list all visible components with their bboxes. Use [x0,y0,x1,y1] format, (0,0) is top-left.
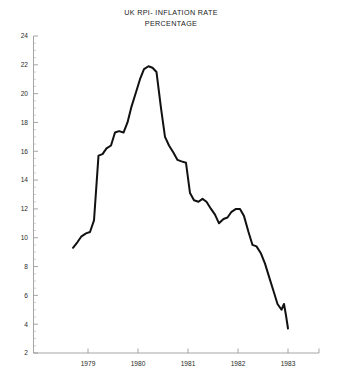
x-axis: 19791980198119821983 [34,349,320,367]
y-tick-label: 22 [21,61,29,68]
y-tick-label: 2 [24,349,28,356]
x-tick-label: 1982 [231,360,246,367]
y-tick-label: 24 [21,32,29,39]
y-tick-label: 8 [24,263,28,270]
x-tick-label: 1983 [281,360,296,367]
data-series-group [73,66,288,328]
chart-figure: UK RPI- INFLATION RATE PERCENTAGE 246810… [0,0,342,385]
y-tick-label: 18 [21,119,29,126]
x-tick-label: 1980 [131,360,146,367]
y-tick-label: 14 [21,176,29,183]
y-tick-label: 16 [21,148,29,155]
y-tick-label: 20 [21,90,29,97]
y-tick-label: 10 [21,234,29,241]
chart-plot-area: 24681012141618202224 1979198019811982198… [0,0,342,385]
y-tick-label: 12 [21,205,29,212]
y-tick-label: 4 [24,321,28,328]
y-axis: 24681012141618202224 [21,32,38,356]
x-tick-label: 1979 [81,360,96,367]
series-line-uk-rpi [73,66,288,328]
x-tick-label: 1981 [181,360,196,367]
y-tick-label: 6 [24,292,28,299]
